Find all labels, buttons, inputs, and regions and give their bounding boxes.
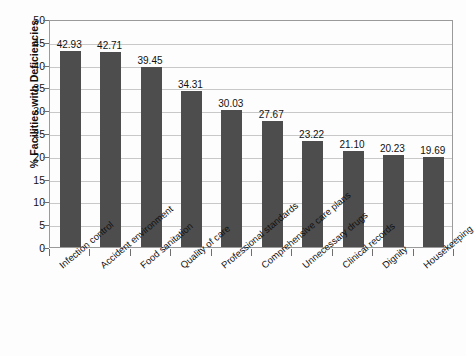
y-axis-tick-label: 45: [23, 37, 45, 49]
y-axis-tick-label: 10: [23, 196, 45, 208]
x-axis-tick-mark: [170, 249, 171, 256]
bar-value-label: 19.69: [413, 145, 453, 156]
bar-value-label: 27.67: [251, 109, 291, 120]
x-axis-tick-mark: [453, 249, 454, 256]
y-axis-tick-label: 35: [23, 82, 45, 94]
y-axis-title: % Facilities with Deficiencies: [28, 0, 40, 194]
bar-value-label: 42.71: [90, 40, 130, 51]
y-axis-tick-label: 25: [23, 128, 45, 140]
x-axis-tick-mark: [413, 249, 414, 256]
bar-value-label: 30.03: [211, 98, 251, 109]
y-axis-tick-label: 5: [23, 219, 45, 231]
x-axis-tick-mark: [251, 249, 252, 256]
bar-value-label: 42.93: [49, 39, 89, 50]
bar: [60, 51, 81, 247]
bar: [100, 52, 121, 247]
y-axis-tick-label: 15: [23, 174, 45, 186]
x-axis-tick-mark: [89, 249, 90, 256]
y-axis-tick-label: 0: [23, 242, 45, 254]
y-axis-tick-label: 40: [23, 60, 45, 72]
y-axis-tick-label: 50: [23, 14, 45, 26]
x-axis-tick-mark: [130, 249, 131, 256]
bar-value-label: 39.45: [130, 55, 170, 66]
bar-value-label: 34.31: [170, 79, 210, 90]
plot-area: [49, 20, 453, 248]
x-axis-tick-mark: [49, 249, 50, 256]
x-axis-tick-mark: [332, 249, 333, 256]
bar: [423, 157, 444, 247]
bar-value-label: 23.22: [292, 129, 332, 140]
x-axis-tick-mark: [291, 249, 292, 256]
y-axis-tick-label: 20: [23, 151, 45, 163]
y-axis-tick-label: 30: [23, 105, 45, 117]
x-axis-tick-mark: [211, 249, 212, 256]
bar-value-label: 20.23: [372, 143, 412, 154]
x-axis-tick-mark: [372, 249, 373, 256]
bar-value-label: 21.10: [332, 139, 372, 150]
